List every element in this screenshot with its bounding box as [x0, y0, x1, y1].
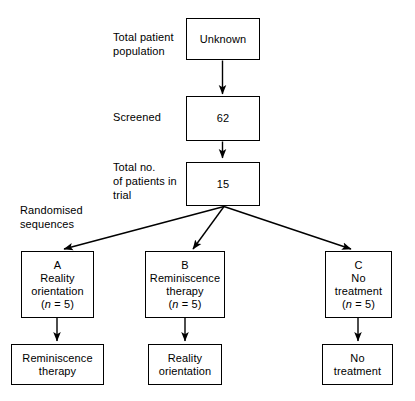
arm-c-letter: C — [354, 259, 362, 272]
box-crossover-a: Reminiscence therapy — [11, 344, 104, 385]
crossover-b-line1: Reality — [168, 352, 202, 365]
stage-label-total-patient-population: Total patient population — [113, 30, 191, 58]
arm-a-line1: Reality — [40, 272, 74, 285]
arm-c-sample-size: (n = 5) — [342, 298, 375, 311]
box-value-trial-total: 15 — [217, 178, 229, 191]
box-arm-a: A Reality orientation (n = 5) — [21, 251, 94, 318]
arm-c-line2: treatment — [335, 285, 382, 298]
box-total-patient-population: Unknown — [186, 18, 260, 60]
crossover-c-line1: No — [350, 352, 364, 365]
arm-b-line2: therapy — [166, 285, 203, 298]
crossover-b-line2: orientation — [159, 365, 211, 378]
box-trial-total: 15 — [186, 162, 260, 206]
crossover-a-line1: Reminiscence — [22, 352, 92, 365]
stage-label-randomised-sequences: Randomised sequences — [20, 203, 120, 231]
arrow-trial-to-arm-b — [193, 207, 224, 250]
stage-label-total-no-of-patients-in-trial: Total no. of patients in trial — [113, 160, 193, 202]
arm-a-n-value: = 5) — [51, 298, 74, 310]
arm-a-letter: A — [54, 259, 61, 272]
arrow-trial-to-arm-c — [224, 207, 351, 250]
box-arm-c: C No treatment (n = 5) — [325, 251, 392, 318]
crossover-c-line2: treatment — [334, 365, 381, 378]
flowchart-canvas: Total patient population Screened Total … — [0, 0, 415, 401]
arm-a-line2: orientation — [31, 285, 83, 298]
box-arm-b: B Reminiscence therapy (n = 5) — [145, 251, 225, 318]
arm-b-line1: Reminiscence — [150, 272, 220, 285]
crossover-a-line2: therapy — [39, 365, 76, 378]
box-value-screened: 62 — [217, 112, 229, 125]
arm-c-n-value: = 5) — [352, 298, 375, 310]
arm-b-sample-size: (n = 5) — [169, 298, 202, 311]
box-value-unknown: Unknown — [200, 33, 247, 46]
stage-label-screened: Screened — [113, 110, 191, 124]
box-screened: 62 — [186, 96, 260, 141]
arm-b-n-value: = 5) — [179, 298, 202, 310]
arm-b-letter: B — [181, 259, 188, 272]
box-crossover-b: Reality orientation — [148, 344, 222, 385]
arm-a-sample-size: (n = 5) — [41, 298, 74, 311]
arm-c-line1: No — [351, 272, 365, 285]
box-crossover-c: No treatment — [322, 344, 393, 385]
